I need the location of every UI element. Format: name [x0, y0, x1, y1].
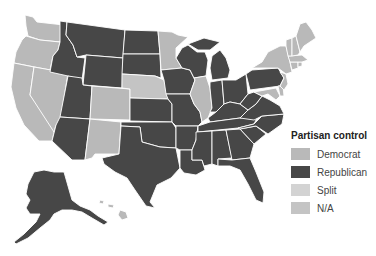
legend-label: Split [317, 185, 336, 196]
legend-item-democrat: Democrat [291, 145, 376, 163]
swatch-split [291, 184, 310, 196]
state-new-mexico [85, 119, 121, 160]
legend-label: Democrat [317, 149, 360, 160]
swatch-republican [291, 166, 310, 178]
state-hawaii [118, 210, 128, 220]
state-kansas [130, 98, 172, 122]
legend: Partisan control Democrat Republican Spl… [291, 130, 376, 217]
legend-item-na: N/A [291, 199, 376, 217]
swatch-na [291, 202, 310, 214]
state-iowa [161, 68, 195, 94]
state-florida [218, 158, 264, 203]
state-maine [296, 22, 316, 52]
state-hawaii-islands-2 [108, 204, 114, 208]
swatch-democrat [291, 148, 310, 160]
legend-item-republican: Republican [291, 163, 376, 181]
legend-title: Partisan control [291, 130, 376, 141]
state-colorado [90, 86, 130, 120]
legend-item-split: Split [291, 181, 376, 199]
state-wyoming [83, 55, 123, 88]
state-alaska [14, 170, 108, 244]
state-hawaii-islands [99, 200, 104, 204]
state-arizona [52, 117, 90, 160]
legend-label: N/A [317, 203, 334, 214]
us-states-map [0, 0, 376, 256]
state-north-dakota [123, 30, 160, 54]
legend-label: Republican [317, 167, 367, 178]
state-rhode-island [298, 62, 302, 67]
